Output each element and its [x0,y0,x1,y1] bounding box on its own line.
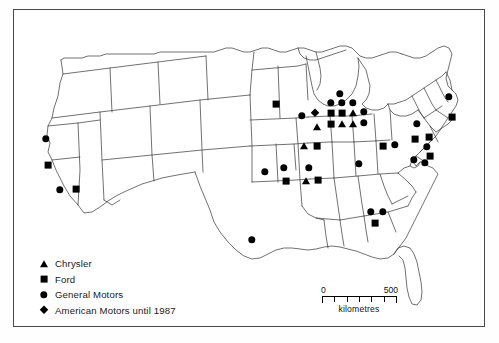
square-marker-glyph [73,186,80,193]
square-marker-glyph [380,143,387,150]
square-marker-glyph [449,114,456,121]
scale-min-label: 0 [321,285,326,295]
scale-numbers: 0 500 [322,285,396,296]
square-marker-glyph [328,121,335,128]
triangle-marker-glyph [40,260,48,267]
triangle-marker-glyph [349,120,357,127]
square-marker-glyph [426,134,433,141]
triangle-marker-glyph [338,120,346,127]
diamond-marker [36,303,52,318]
scale-units-label: kilometres [322,304,396,314]
legend-label: Ford [55,274,75,285]
square-marker-glyph [41,276,48,283]
square-marker-glyph [427,153,434,160]
legend-item-general-motors: General Motors [36,287,176,303]
scale-tick [396,296,397,303]
legend-label: General Motors [55,289,123,300]
scale-line [322,296,396,303]
legend-item-ford: Ford [36,272,176,288]
legend-label: American Motors until 1987 [55,305,176,316]
triangle-marker-glyph [302,177,310,184]
scale-max-label: 500 [384,285,398,295]
square-marker-glyph [45,162,52,169]
circle-marker-glyph [40,291,47,298]
square-marker [36,272,52,287]
scale-tick [384,296,385,302]
triangle-marker-glyph [313,123,321,130]
square-marker-glyph [339,110,346,117]
square-marker-glyph [328,110,335,117]
triangle-marker [36,256,52,271]
legend-item-chrysler: Chrysler [36,256,176,272]
map-legend: ChryslerFordGeneral MotorsAmerican Motor… [36,256,176,318]
square-marker-glyph [273,101,280,108]
map-figure: ChryslerFordGeneral MotorsAmerican Motor… [0,0,499,343]
diamond-marker-glyph [40,306,49,315]
triangle-marker-glyph [349,109,357,116]
triangle-marker-glyph [300,142,308,149]
square-marker-glyph [372,220,379,227]
scale-tick [334,296,335,302]
square-marker-glyph [412,136,419,143]
scale-tick [371,296,372,302]
scale-tick [359,296,360,302]
square-marker-glyph [314,143,321,150]
scale-tick [347,296,348,302]
legend-label: Chrysler [55,258,92,269]
square-marker-glyph [315,177,322,184]
scale-tick [322,296,323,303]
legend-item-american-motors-until-1987: American Motors until 1987 [36,303,176,319]
square-marker-glyph [283,178,290,185]
circle-marker [36,287,52,302]
scale-bar: 0 500 kilometres [322,285,396,314]
